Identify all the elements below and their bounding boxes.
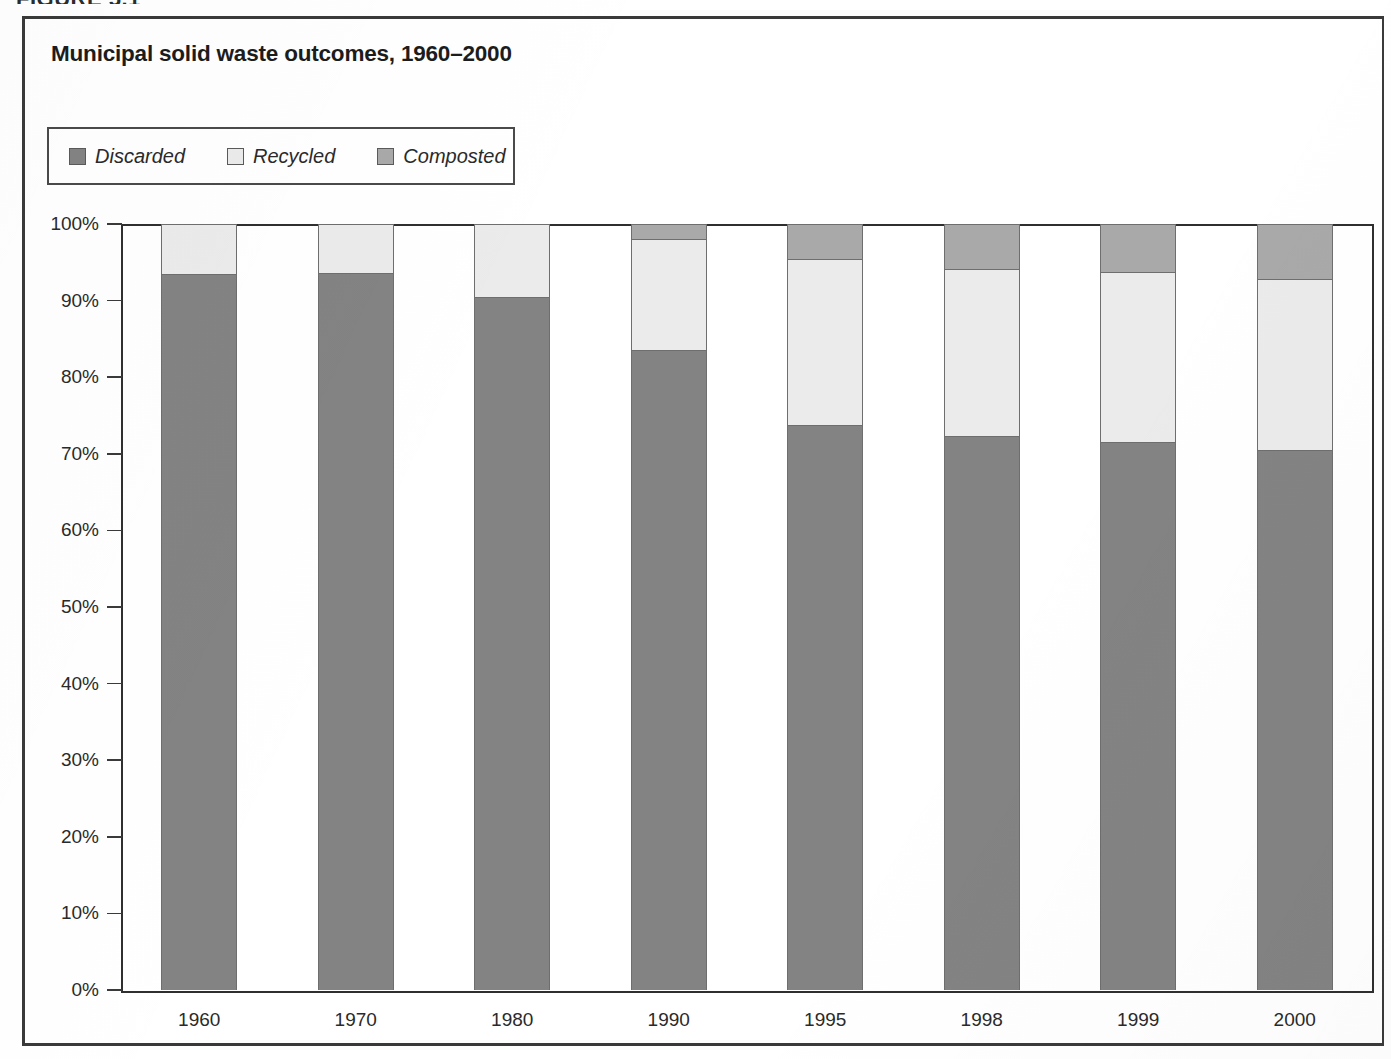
y-axis-tick-label: 20%: [25, 826, 99, 848]
plot-wrapper: 100%90%80%70%60%50%40%30%20%10%0% 196019…: [25, 19, 1384, 1043]
bar-segment-1990-discarded[interactable]: [631, 350, 707, 990]
y-axis-tick-label: 30%: [25, 749, 99, 771]
figure-caption: FIGURE 5.1: [16, 0, 141, 4]
y-axis-tick-label: 60%: [25, 519, 99, 541]
bar-segment-1995-discarded[interactable]: [787, 425, 863, 990]
bar-segment-1999-composted[interactable]: [1100, 224, 1176, 272]
bar-segment-1970-recycled[interactable]: [318, 224, 394, 273]
y-axis-tick-label: 50%: [25, 596, 99, 618]
y-axis-tick: [107, 376, 122, 378]
bar-group-1990[interactable]: [631, 224, 707, 990]
y-axis-tick-label: 90%: [25, 290, 99, 312]
bar-group-1999[interactable]: [1100, 224, 1176, 990]
bar-segment-1998-discarded[interactable]: [944, 436, 1020, 990]
y-axis-tick: [107, 913, 122, 915]
y-axis-tick: [107, 683, 122, 685]
y-axis-tick: [107, 989, 122, 991]
y-axis-tick-label: 40%: [25, 673, 99, 695]
y-axis-tick: [107, 836, 122, 838]
x-axis-tick-label: 1990: [609, 1009, 729, 1031]
bar-segment-1998-composted[interactable]: [944, 224, 1020, 269]
y-axis-tick-label: 100%: [25, 213, 99, 235]
y-axis-tick: [107, 530, 122, 532]
bar-segment-1995-recycled[interactable]: [787, 259, 863, 425]
x-axis-tick-label: 1998: [922, 1009, 1042, 1031]
bar-group-1980[interactable]: [474, 224, 550, 990]
y-axis-tick: [107, 300, 122, 302]
plot-area: [121, 224, 1373, 990]
bar-segment-1970-discarded[interactable]: [318, 273, 394, 990]
x-axis-tick-label: 1960: [139, 1009, 259, 1031]
y-axis-tick-label: 80%: [25, 366, 99, 388]
x-axis-tick-label: 1999: [1078, 1009, 1198, 1031]
x-axis-tick-label: 1980: [452, 1009, 572, 1031]
figure-panel: Municipal solid waste outcomes, 1960–200…: [22, 16, 1384, 1046]
y-axis-tick: [107, 759, 122, 761]
y-axis-tick: [107, 223, 122, 225]
bar-segment-1998-recycled[interactable]: [944, 269, 1020, 436]
bar-group-2000[interactable]: [1257, 224, 1333, 990]
bar-segment-1980-recycled[interactable]: [474, 224, 550, 297]
bar-segment-1990-composted[interactable]: [631, 224, 707, 239]
y-axis-tick-label: 10%: [25, 902, 99, 924]
bar-segment-1999-discarded[interactable]: [1100, 442, 1176, 990]
bar-segment-1999-recycled[interactable]: [1100, 272, 1176, 441]
bar-segment-2000-composted[interactable]: [1257, 224, 1333, 279]
bar-segment-1990-recycled[interactable]: [631, 239, 707, 350]
bar-group-1998[interactable]: [944, 224, 1020, 990]
y-axis-tick-label: 0%: [25, 979, 99, 1001]
y-axis-tick: [107, 606, 122, 608]
bar-segment-2000-recycled[interactable]: [1257, 279, 1333, 450]
bar-segment-1960-recycled[interactable]: [161, 224, 237, 274]
bar-group-1970[interactable]: [318, 224, 394, 990]
bar-segment-2000-discarded[interactable]: [1257, 450, 1333, 990]
bar-segment-1995-composted[interactable]: [787, 224, 863, 259]
x-axis-tick-label: 2000: [1235, 1009, 1355, 1031]
y-axis-tick-label: 70%: [25, 443, 99, 465]
x-axis-tick-label: 1970: [296, 1009, 416, 1031]
x-axis-line: [121, 991, 1374, 993]
y-axis-tick: [107, 453, 122, 455]
bar-segment-1980-discarded[interactable]: [474, 297, 550, 990]
bar-group-1960[interactable]: [161, 224, 237, 990]
x-axis-tick-label: 1995: [765, 1009, 885, 1031]
bar-group-1995[interactable]: [787, 224, 863, 990]
bar-segment-1960-discarded[interactable]: [161, 274, 237, 990]
